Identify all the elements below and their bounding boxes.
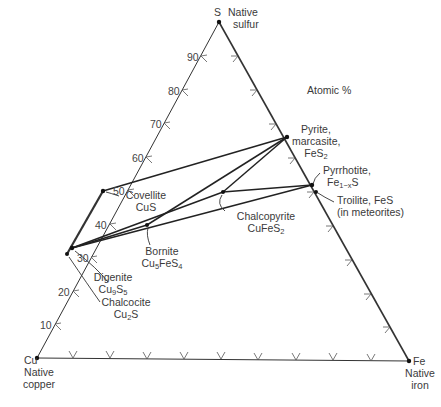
tick-label-70: 70	[150, 118, 162, 130]
atomic-percent-label: Atomic %	[307, 84, 351, 96]
label-bornite: Bornite Cu5FeS4	[134, 245, 190, 269]
vertex-cu-label: Cu Native copper	[22, 354, 56, 390]
vertex-fe-label: Fe Native iron	[400, 355, 440, 391]
label-digenite: Digenite Cu9S5	[90, 271, 136, 295]
tick-label-80: 80	[168, 85, 180, 97]
label-pyrrhotite: Pyrrhotite, Fe1−xS	[323, 164, 371, 188]
label-chalcocite: Chalcocite Cu2S	[98, 296, 154, 320]
edge-s-fe	[219, 22, 409, 361]
tick-label-30: 30	[77, 252, 89, 264]
label-covellite: Covellite CuS	[120, 189, 172, 213]
label-troilite: Troilite, FeS (in meteorites)	[337, 194, 404, 218]
tick-label-60: 60	[132, 152, 144, 164]
tick-label-40: 40	[95, 219, 107, 231]
label-pyrite: Pyrite, marcasite, FeS2	[292, 123, 340, 159]
vertex-s-name: Native sulfur	[228, 6, 259, 30]
label-chalcopyrite: Chalcopyrite CuFeS2	[232, 210, 300, 234]
vertex-s-symbol: S	[214, 6, 221, 18]
tick-label-20: 20	[58, 286, 70, 298]
edge-cu-fe	[37, 358, 409, 361]
phase-points	[35, 20, 411, 363]
tick-label-10: 10	[40, 319, 52, 331]
tick-label-90: 90	[187, 51, 199, 63]
